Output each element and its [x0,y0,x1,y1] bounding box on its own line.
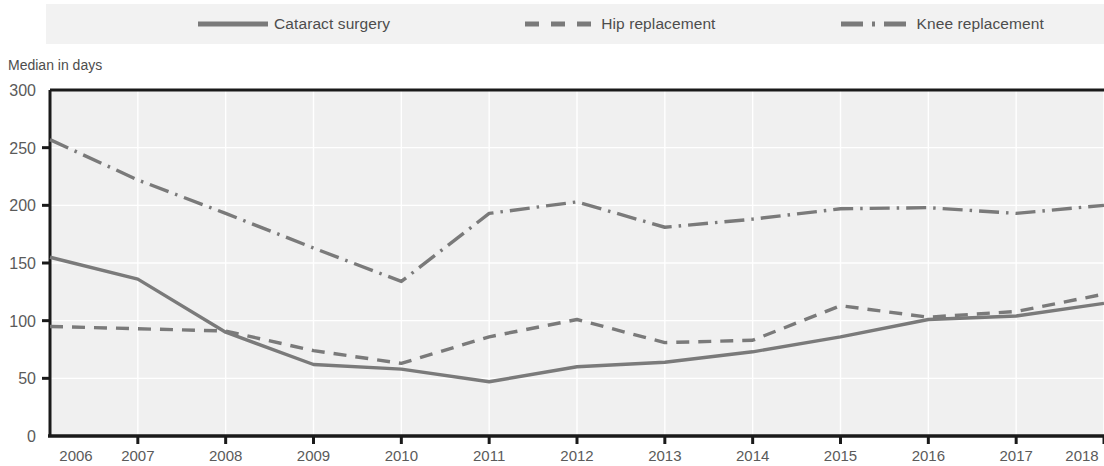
x-tick-label: 2016 [912,447,945,464]
x-tick-label: 2006 [59,447,92,464]
x-tick-label: 2010 [385,447,418,464]
x-tick-label: 2014 [736,447,769,464]
y-tick-label: 0 [27,428,36,445]
x-tick-label: 2012 [560,447,593,464]
y-tick-label: 150 [9,255,36,272]
x-tick-label: 2015 [824,447,857,464]
x-tick-label: 2007 [121,447,154,464]
y-tick-label: 100 [9,313,36,330]
line-chart: 050100150200250300 200620072008200920102… [0,0,1104,466]
x-tick-label: 2018 [1065,447,1098,464]
x-tick-label: 2011 [473,447,505,464]
x-tick-label: 2009 [297,447,330,464]
x-tick-label: 2013 [648,447,681,464]
y-tick-label: 50 [18,370,36,387]
x-tick-label: 2017 [999,447,1032,464]
y-tick-label: 250 [9,140,36,157]
y-tick-label: 300 [9,82,36,99]
x-tick-labels: 2006200720082009201020112012201320142015… [59,447,1098,464]
x-tick-label: 2008 [209,447,242,464]
y-tick-labels: 050100150200250300 [9,82,36,445]
y-tick-label: 200 [9,197,36,214]
chart-svg: 050100150200250300 200620072008200920102… [0,0,1104,466]
